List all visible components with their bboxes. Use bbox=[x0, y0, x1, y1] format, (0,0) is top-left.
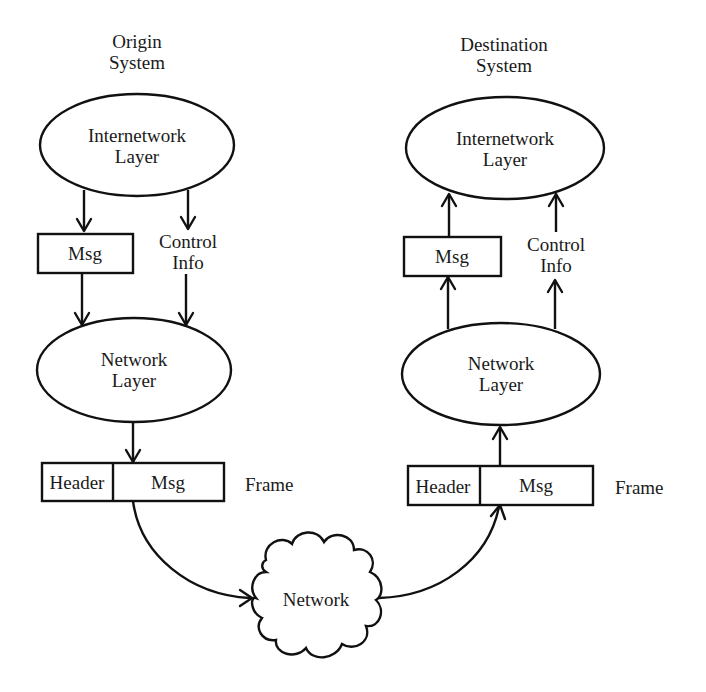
curve-origin-to-cloud bbox=[133, 501, 250, 598]
origin-title-line2: System bbox=[109, 52, 165, 73]
destination-control-info-line2: Info bbox=[540, 255, 572, 276]
origin-msg-label: Msg bbox=[68, 243, 102, 264]
origin-title-line1: Origin bbox=[112, 31, 162, 52]
destination-up-arrows-top bbox=[442, 194, 563, 237]
origin-network-layer: Network Layer bbox=[37, 318, 231, 422]
cloud-label: Network bbox=[283, 589, 350, 610]
destination-msg-label: Msg bbox=[435, 246, 469, 267]
origin-frame-header: Header bbox=[50, 472, 106, 493]
protocol-diagram: Origin System Internetwork Layer Msg Con… bbox=[0, 0, 706, 692]
origin-frame-label: Frame bbox=[245, 474, 294, 495]
destination-frame-label: Frame bbox=[615, 477, 664, 498]
destination-frame-header: Header bbox=[416, 476, 472, 497]
origin-internetwork-label-line2: Layer bbox=[115, 146, 160, 167]
origin-network-label-line1: Network bbox=[101, 349, 168, 370]
origin-frame-msg: Msg bbox=[151, 472, 185, 493]
origin-frame: Header Msg bbox=[42, 463, 224, 501]
origin-system: Origin System Internetwork Layer Msg Con… bbox=[37, 31, 294, 501]
destination-internetwork-label-line1: Internetwork bbox=[456, 128, 555, 149]
origin-msg-box: Msg bbox=[38, 234, 133, 273]
curve-cloud-to-destination bbox=[379, 507, 499, 598]
destination-title-line2: System bbox=[476, 55, 532, 76]
origin-internetwork-layer: Internetwork Layer bbox=[40, 94, 234, 196]
destination-up-arrows-mid bbox=[441, 277, 562, 329]
destination-frame-msg: Msg bbox=[519, 475, 553, 496]
origin-control-info-line1: Control bbox=[159, 231, 217, 252]
destination-control-info-line1: Control bbox=[527, 234, 585, 255]
destination-network-layer: Network Layer bbox=[402, 323, 600, 425]
destination-title-line1: Destination bbox=[460, 34, 548, 55]
destination-system: Destination System Internetwork Layer Ms… bbox=[402, 34, 664, 505]
network-cloud: Network bbox=[252, 532, 381, 657]
destination-network-label-line1: Network bbox=[468, 353, 535, 374]
origin-internetwork-label-line1: Internetwork bbox=[88, 125, 187, 146]
destination-network-label-line2: Layer bbox=[479, 374, 524, 395]
destination-internetwork-layer: Internetwork Layer bbox=[406, 97, 604, 199]
destination-frame: Header Msg bbox=[408, 466, 593, 505]
origin-control-info-line2: Info bbox=[172, 252, 204, 273]
destination-msg-box: Msg bbox=[404, 237, 501, 276]
origin-network-label-line2: Layer bbox=[112, 370, 157, 391]
destination-internetwork-label-line2: Layer bbox=[483, 149, 528, 170]
